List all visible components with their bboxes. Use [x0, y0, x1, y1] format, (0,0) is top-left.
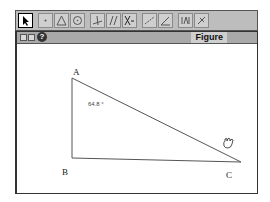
- triangle-figure[interactable]: [17, 44, 258, 194]
- text-icon: [179, 14, 192, 27]
- triangle-icon: [55, 14, 68, 27]
- text-tool-button[interactable]: [178, 13, 193, 28]
- parallel-icon: [107, 14, 120, 27]
- zoom-box[interactable]: [28, 34, 35, 41]
- perpendicular-tool-button[interactable]: [90, 13, 105, 28]
- window-title: Figure: [191, 32, 227, 43]
- intersection-tool-button[interactable]: [122, 13, 137, 28]
- figure-window: ? Figure A B C 64.8 °: [15, 31, 258, 194]
- circle-tool-button[interactable]: [70, 13, 85, 28]
- point-icon: [39, 14, 52, 27]
- toolbar: [15, 10, 258, 31]
- angle-measure[interactable]: 64.8 °: [88, 101, 104, 107]
- window-titlebar[interactable]: ? Figure: [17, 32, 257, 44]
- perpendicular-icon: [91, 14, 104, 27]
- measure-tool-button[interactable]: [142, 13, 157, 28]
- help-icon[interactable]: ?: [37, 32, 47, 42]
- close-box[interactable]: [20, 34, 27, 41]
- point-label-a: A: [73, 67, 80, 77]
- point-label-b: B: [62, 167, 68, 177]
- arrow-icon: [19, 14, 32, 27]
- arrow-tool-button[interactable]: [18, 13, 33, 28]
- segment-bc[interactable]: [72, 158, 241, 162]
- triangle-tool-button[interactable]: [54, 13, 69, 28]
- measure-icon: [143, 14, 156, 27]
- parallel-tool-button[interactable]: [106, 13, 121, 28]
- intersection-icon: [123, 14, 136, 27]
- angle-tool-button[interactable]: [158, 13, 173, 28]
- point-tool-button[interactable]: [38, 13, 53, 28]
- erase-icon: [195, 14, 208, 27]
- hand-cursor-icon: [224, 138, 233, 148]
- drawing-canvas[interactable]: A B C 64.8 °: [17, 44, 257, 193]
- circle-icon: [71, 14, 84, 27]
- erase-tool-button[interactable]: [194, 13, 209, 28]
- angle-icon: [159, 14, 172, 27]
- segment-ac[interactable]: [72, 78, 241, 162]
- point-label-c: C: [226, 170, 232, 180]
